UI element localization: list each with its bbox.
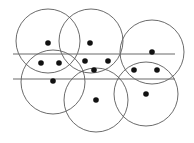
point-7 (105, 58, 111, 64)
lines-group (13, 54, 175, 79)
point-8 (91, 67, 97, 73)
circle-cover-diagram (0, 0, 194, 143)
point-1 (45, 40, 51, 46)
point-12 (93, 97, 99, 103)
point-3 (149, 49, 155, 55)
point-4 (38, 60, 44, 66)
point-2 (87, 40, 93, 46)
point-13 (143, 91, 149, 97)
point-10 (154, 67, 160, 73)
point-5 (56, 60, 62, 66)
point-11 (50, 78, 56, 84)
point-9 (131, 67, 137, 73)
point-6 (82, 58, 88, 64)
